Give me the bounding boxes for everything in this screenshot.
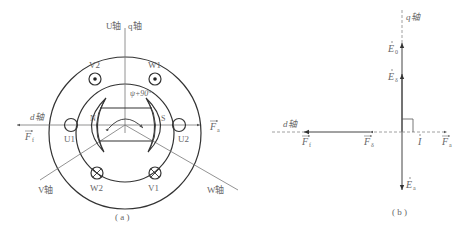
v-axis-line	[40, 125, 125, 180]
winding-w2-label: W2	[90, 183, 103, 193]
winding-v2-dot	[89, 73, 101, 85]
v-axis-label: V轴	[38, 184, 54, 195]
svg-text:f: f	[309, 142, 311, 148]
vector-ff-label: F f	[24, 131, 34, 143]
svg-text:F: F	[24, 131, 32, 142]
figure-a-caption: ( a )	[115, 212, 130, 222]
winding-v1-label: V1	[148, 183, 159, 193]
w-axis-label: W轴	[207, 184, 225, 195]
figure-b-caption: ( b )	[392, 207, 407, 217]
winding-u1-label: U1	[64, 134, 75, 144]
svg-text:I: I	[417, 136, 422, 147]
svg-text:F: F	[363, 136, 371, 147]
svg-text:F: F	[301, 136, 309, 147]
phasor-e0-label: E 0	[387, 41, 398, 55]
winding-v1-cross	[149, 167, 161, 179]
d-axis-label-b: d轴	[283, 119, 298, 129]
svg-text:a: a	[449, 142, 452, 148]
svg-text:δ: δ	[371, 142, 374, 148]
svg-text:E: E	[387, 43, 394, 54]
phasor-edelta-label: E δ	[387, 69, 398, 83]
svg-text:E: E	[405, 179, 412, 190]
phasor-i-label: I	[417, 134, 422, 147]
svg-text:δ: δ	[395, 77, 398, 83]
figure-a-motor-diagram: U轴 q轴 V2 W1 ψ+90° N S U1 U2 W2 V1 d轴 V轴 …	[17, 20, 238, 222]
svg-text:F: F	[209, 121, 217, 132]
svg-text:a: a	[217, 127, 220, 133]
svg-text:f: f	[32, 137, 34, 143]
d-axis-label: d轴	[30, 112, 45, 122]
winding-u2-label: U2	[178, 134, 189, 144]
svg-text:E: E	[387, 71, 394, 82]
winding-v2-label: V2	[89, 60, 100, 70]
svg-text:a: a	[413, 185, 416, 191]
right-angle-marker	[402, 119, 413, 132]
phasor-ea-label: E a	[405, 177, 416, 191]
rotation-arc	[109, 119, 143, 128]
figure-b-phasor-diagram: q轴 d轴 E 0 E δ E a I F f F δ	[272, 10, 452, 217]
angle-label: ψ+90°	[130, 89, 152, 98]
vector-ff-label-b: F f	[301, 136, 311, 148]
vector-fa-label-b: F a	[441, 136, 452, 148]
winding-w2-cross	[91, 167, 103, 179]
winding-w1-dot	[149, 73, 161, 85]
winding-w1-label: W1	[148, 60, 161, 70]
q-axis-label-b: q轴	[406, 12, 421, 22]
svg-text:0: 0	[395, 49, 398, 55]
figure-canvas: U轴 q轴 V2 W1 ψ+90° N S U1 U2 W2 V1 d轴 V轴 …	[0, 0, 457, 230]
svg-text:F: F	[441, 136, 449, 147]
u-axis-label: U轴	[106, 20, 122, 31]
north-pole-label: N	[90, 114, 96, 123]
south-pole-label: S	[161, 114, 165, 123]
vector-fdelta-label-b: F δ	[363, 136, 374, 148]
q-axis-label: q轴	[128, 20, 142, 31]
vector-fa-label: F a	[209, 121, 220, 133]
